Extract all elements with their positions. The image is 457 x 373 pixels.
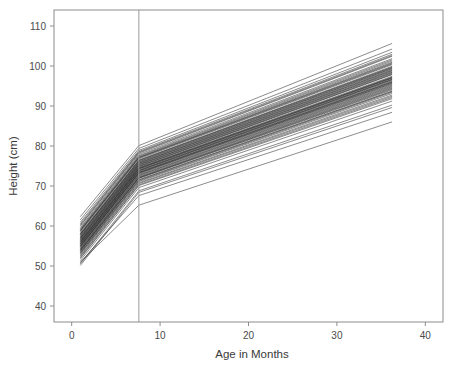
growth-chart-figure: 010203040 405060708090100110 Age in Mont… [0, 0, 457, 373]
x-tick-label: 10 [155, 330, 167, 341]
y-tick-label: 110 [30, 21, 46, 32]
y-tick-label: 100 [29, 61, 46, 72]
x-tick-label: 30 [331, 330, 343, 341]
x-tick-label: 40 [420, 330, 432, 341]
x-axis-label: Age in Months [215, 348, 289, 360]
y-tick-label: 90 [35, 101, 47, 112]
y-axis-label: Height (cm) [7, 136, 19, 196]
y-tick-label: 80 [35, 141, 47, 152]
y-tick-label: 60 [35, 221, 47, 232]
y-tick-label: 40 [35, 301, 47, 312]
chart-canvas: 010203040 405060708090100110 Age in Mont… [0, 0, 457, 373]
x-tick-label: 0 [69, 330, 75, 341]
y-tick-label: 50 [35, 261, 47, 272]
y-tick-label: 70 [35, 181, 47, 192]
x-tick-label: 20 [243, 330, 255, 341]
